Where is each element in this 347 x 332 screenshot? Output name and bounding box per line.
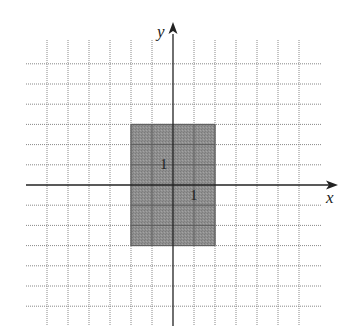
y-axis-label: y	[157, 23, 165, 40]
x-axis-label: x	[326, 189, 334, 206]
x-unit-label: 1	[190, 188, 198, 203]
grid-canvas	[0, 0, 347, 332]
coordinate-diagram: y x 1 1	[0, 0, 347, 332]
y-unit-label: 1	[160, 157, 168, 172]
